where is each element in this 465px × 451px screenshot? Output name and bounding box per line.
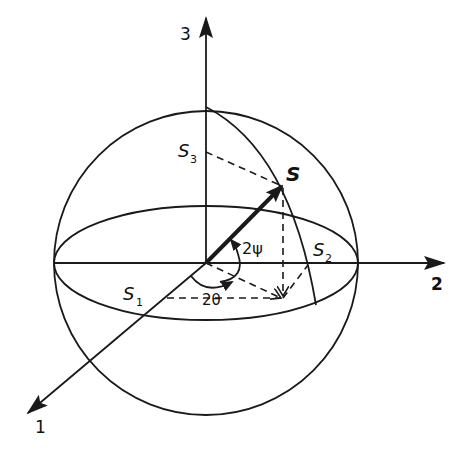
svg-text:1: 1 [136, 296, 143, 309]
point-s-label: S [286, 162, 300, 186]
svg-text:2: 2 [325, 252, 332, 265]
angle-2psi-label: 2ψ [242, 239, 263, 258]
s1-label: S 1 [123, 283, 143, 309]
axis-1-line [28, 263, 206, 413]
svg-text:S: S [123, 283, 134, 304]
axis-1-label: 1 [35, 417, 46, 437]
poincare-sphere-diagram: 3 2 1 S S 3 S 2 S 1 2ψ 2θ [0, 0, 465, 451]
axis-2-label: 2 [431, 274, 443, 294]
s2-projection-dash [283, 265, 308, 298]
s3-label: S 3 [178, 140, 197, 166]
s2-label: S 2 [313, 239, 332, 265]
angle-2theta-label: 2θ [202, 291, 221, 309]
axis-3-label: 3 [180, 24, 191, 44]
angle-2theta-arc [191, 276, 232, 288]
svg-text:S: S [178, 140, 189, 161]
svg-text:S: S [313, 239, 324, 260]
svg-text:3: 3 [190, 153, 197, 166]
